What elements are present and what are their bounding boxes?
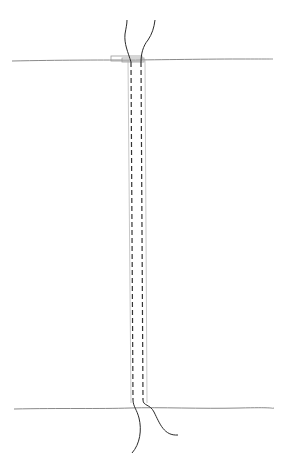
conduit-dashed-right xyxy=(141,62,143,400)
conduit-outline-left xyxy=(128,60,131,403)
conduit-sketch xyxy=(0,0,294,464)
conduit-outline-right xyxy=(145,60,147,403)
conduit-dashed-left xyxy=(131,62,133,400)
cable-top-right xyxy=(141,20,155,62)
cable-bottom-right xyxy=(143,400,178,435)
diagram-canvas xyxy=(0,0,294,464)
top-surface-line xyxy=(12,59,273,61)
bottom-surface-line xyxy=(14,408,274,409)
